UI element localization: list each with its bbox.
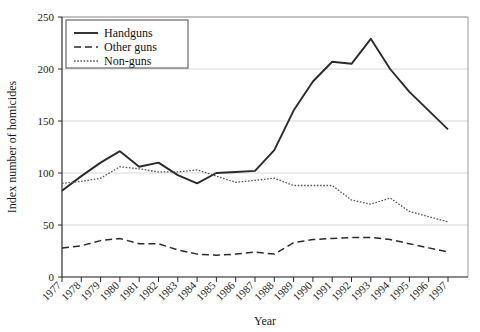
x-tick-label-1981: 1981 <box>117 279 141 303</box>
x-tick-label-1983: 1983 <box>155 279 179 303</box>
x-axis-title: Year <box>254 314 276 328</box>
x-tick-label-1997: 1997 <box>425 279 449 303</box>
x-tick-label-1995: 1995 <box>387 279 411 303</box>
x-tick-label-1979: 1979 <box>78 279 102 303</box>
x-tick-label-1980: 1980 <box>97 279 121 303</box>
y-tick-label-50: 50 <box>43 219 55 231</box>
x-tick-label-1977: 1977 <box>39 279 63 303</box>
x-tick-label-1990: 1990 <box>290 279 314 303</box>
series-group <box>62 39 448 255</box>
x-axis-ticks-group: 1977197819791980198119821983198419851986… <box>39 277 449 303</box>
y-tick-label-250: 250 <box>38 11 55 23</box>
series-line-non-guns <box>62 167 448 222</box>
series-line-other-guns <box>62 237 448 255</box>
x-tick-label-1993: 1993 <box>348 279 372 303</box>
y-tick-label-150: 150 <box>38 115 55 127</box>
x-tick-label-1992: 1992 <box>329 279 353 303</box>
legend-label-other-guns: Other guns <box>104 40 157 54</box>
homicide-index-line-chart: 050100150200250 197719781979198019811982… <box>0 0 480 332</box>
legend: HandgunsOther gunsNon-guns <box>66 20 188 68</box>
x-tick-label-1986: 1986 <box>213 279 237 303</box>
legend-label-non-guns: Non-guns <box>104 54 152 68</box>
legend-label-handguns: Handguns <box>104 26 153 40</box>
x-tick-label-1988: 1988 <box>252 279 276 303</box>
x-tick-label-1984: 1984 <box>174 279 198 303</box>
y-axis-title: Index number of homicides <box>5 81 19 214</box>
x-tick-label-1994: 1994 <box>367 279 391 303</box>
chart-canvas: 050100150200250 197719781979198019811982… <box>0 0 480 332</box>
x-tick-label-1985: 1985 <box>194 279 218 303</box>
x-tick-label-1978: 1978 <box>59 279 83 303</box>
x-tick-label-1996: 1996 <box>406 279 430 303</box>
x-tick-label-1989: 1989 <box>271 279 295 303</box>
x-tick-label-1982: 1982 <box>136 279 160 303</box>
x-tick-label-1991: 1991 <box>310 279 334 303</box>
y-axis-ticks-group: 050100150200250 <box>38 11 63 283</box>
y-tick-label-100: 100 <box>38 167 55 179</box>
x-tick-label-1987: 1987 <box>232 279 256 303</box>
y-tick-label-200: 200 <box>38 63 55 75</box>
